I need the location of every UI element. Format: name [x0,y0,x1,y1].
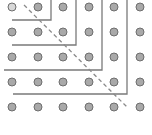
dot-r5-c4 [85,103,93,111]
dot-r1-c4 [85,3,93,11]
dot-r4-c2 [34,78,42,86]
dot-r5-c2 [34,103,42,111]
diagram-canvas [0,0,152,135]
dot-r5-c6 [136,103,144,111]
dot-r5-c3 [59,103,67,111]
dot-r4-c3 [59,78,67,86]
dot-r4-c1 [8,78,16,86]
gnomon-line-4 [13,0,127,94]
dot-r3-c3 [59,53,67,61]
dot-r3-c6 [136,53,144,61]
dot-r2-c6 [136,28,144,36]
dot-r5-c5 [110,103,118,111]
dot-r3-c2 [34,53,42,61]
dot-r3-c1 [8,53,16,61]
gnomon-line-1 [12,0,51,20]
dot-r2-c3 [59,28,67,36]
dot-r1-c1 [8,3,16,11]
dot-r4-c5 [110,78,118,86]
dot-r1-c3 [59,3,67,11]
dot-r3-c4 [85,53,93,61]
dot-r3-c5 [110,53,118,61]
dot-r1-c2 [34,3,42,11]
dot-r5-c1 [8,103,16,111]
dot-r4-c4 [85,78,93,86]
dot-grid-diagram [0,0,152,135]
dot-r1-c5 [110,3,118,11]
dot-r2-c1 [8,28,16,36]
dot-r4-c6 [136,78,144,86]
dot-r2-c4 [85,28,93,36]
dot-r1-c6 [136,3,144,11]
dot-r2-c5 [110,28,118,36]
dot-r2-c2 [34,28,42,36]
